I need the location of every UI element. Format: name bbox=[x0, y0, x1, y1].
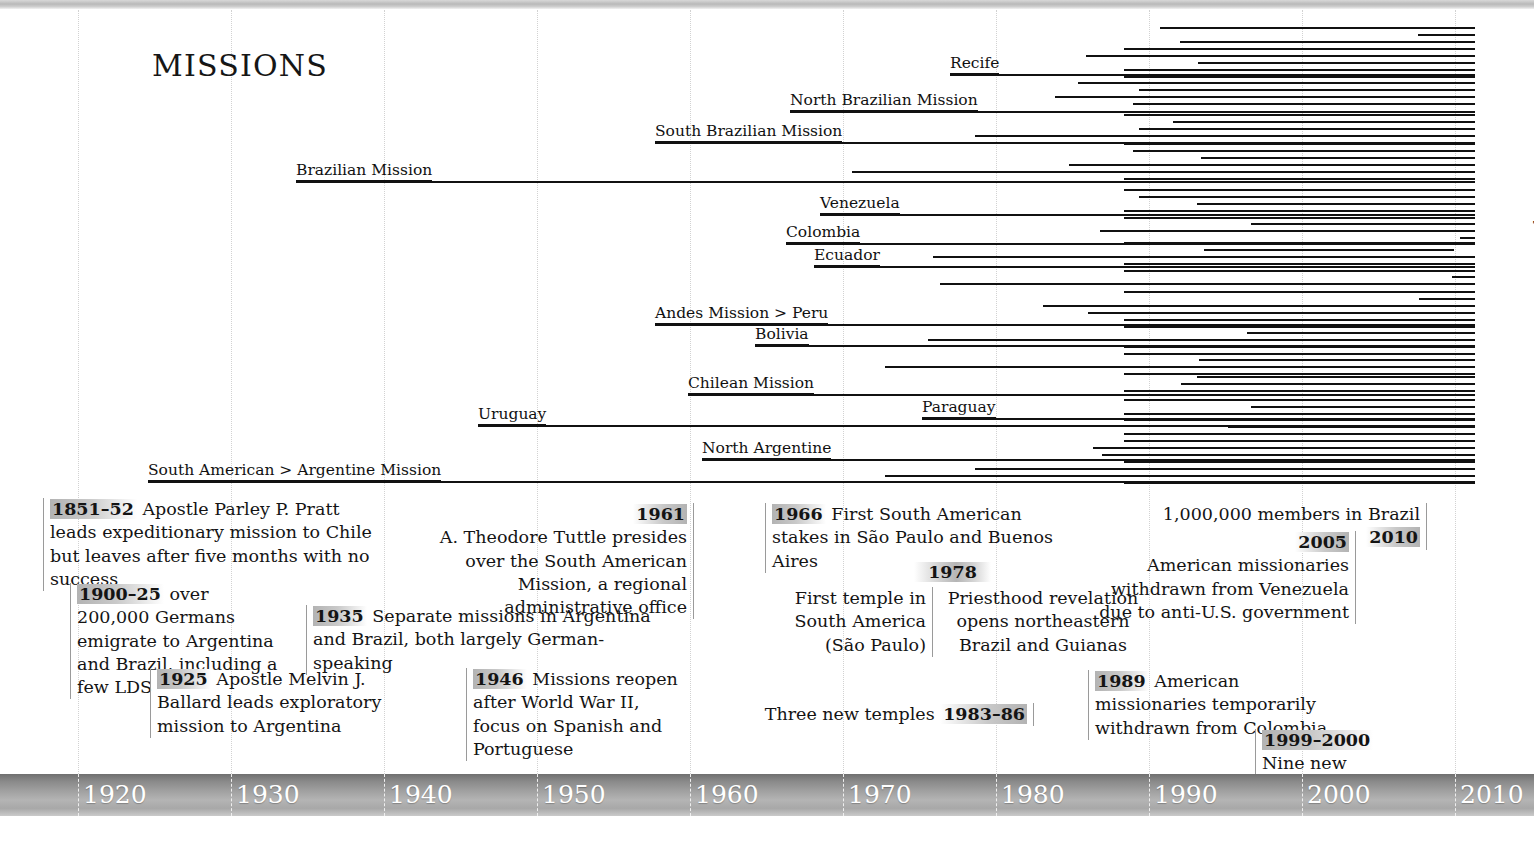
mission-bar bbox=[1139, 196, 1475, 198]
mission-group-rule bbox=[543, 425, 1475, 427]
mission-group-leader bbox=[950, 74, 1020, 76]
missions-chart: RecifeNorth Brazilian MissionSouth Brazi… bbox=[0, 10, 1534, 480]
mission-group-leader bbox=[688, 394, 808, 396]
mission-group-label: Brazilian Mission bbox=[296, 161, 432, 182]
mission-group-leader bbox=[814, 266, 879, 268]
mission-group-label: North Brazilian Mission bbox=[790, 91, 978, 112]
mission-group-label: Colombia bbox=[786, 223, 860, 244]
mission-bar bbox=[1124, 270, 1475, 272]
mission-group-leader bbox=[820, 214, 905, 216]
mission-group-rule bbox=[905, 214, 1475, 216]
mission-bar bbox=[885, 366, 1475, 368]
mission-bar bbox=[1124, 373, 1475, 375]
mission-group-leader bbox=[755, 345, 812, 347]
mission-group-label: Uruguay bbox=[478, 405, 546, 426]
mission-group-leader bbox=[296, 181, 443, 183]
mission-bar bbox=[1133, 150, 1475, 152]
mission-group-label: South Brazilian Mission bbox=[655, 122, 842, 143]
mission-group-rule bbox=[975, 111, 1475, 113]
mission-bar bbox=[1181, 383, 1475, 385]
mission-bar bbox=[1180, 41, 1475, 43]
mission-bar bbox=[1124, 399, 1475, 401]
mission-group-rule bbox=[812, 345, 1475, 347]
axis-label-1940: 1940 bbox=[389, 780, 453, 809]
mission-group-label: Recife bbox=[950, 54, 999, 75]
mission-bar bbox=[933, 256, 1475, 258]
mission-group-label: Chilean Mission bbox=[688, 374, 814, 395]
mission-bar bbox=[1124, 76, 1475, 78]
mission-bar bbox=[1124, 114, 1475, 116]
axis-label-2010: 2010 bbox=[1460, 780, 1524, 809]
annotation-a1978a: First temple in South America (São Paulo… bbox=[766, 587, 933, 657]
axis-tick-2010 bbox=[1455, 774, 1456, 816]
mission-group-rule bbox=[861, 243, 1475, 245]
annotation-a2005: 2005American missionaries withdrawn from… bbox=[1088, 531, 1356, 624]
mission-bar bbox=[1199, 359, 1475, 361]
mission-bar bbox=[1124, 390, 1475, 392]
annotation-year: 2010 bbox=[1366, 527, 1420, 547]
axis-label-1960: 1960 bbox=[695, 780, 759, 809]
annotation-a1961: 1961A. Theodore Tuttle presides over the… bbox=[397, 503, 694, 619]
mission-group-rule bbox=[820, 324, 1475, 326]
mission-group-leader bbox=[786, 243, 861, 245]
mission-group-leader bbox=[655, 142, 838, 144]
annotation-year: 1935 bbox=[313, 606, 367, 626]
mission-bar bbox=[1124, 217, 1475, 219]
annotation-year: 2005 bbox=[1295, 532, 1349, 552]
mission-bar bbox=[1043, 305, 1475, 307]
mission-bar bbox=[1124, 461, 1475, 463]
mission-bar bbox=[1197, 376, 1475, 378]
annotation-text: 1,000,000 members in Brazil bbox=[1163, 504, 1420, 524]
annotation-year: 1999–2000 bbox=[1262, 730, 1373, 750]
mission-bar bbox=[1173, 121, 1475, 123]
mission-bar bbox=[1139, 89, 1475, 91]
mission-bar bbox=[885, 475, 1475, 477]
mission-bar bbox=[1198, 62, 1475, 64]
mission-bar bbox=[1139, 128, 1475, 130]
mission-bar bbox=[1124, 353, 1475, 355]
mission-bar bbox=[1078, 82, 1475, 84]
mission-group-label: Ecuador bbox=[814, 246, 880, 267]
axis-label-1970: 1970 bbox=[848, 780, 912, 809]
infographic-root: MISSIONS RecifeNorth Brazilian MissionSo… bbox=[0, 0, 1534, 841]
axis-tick-1970 bbox=[843, 774, 844, 816]
mission-group-rule bbox=[996, 418, 1475, 420]
mission-bar bbox=[1204, 249, 1454, 251]
mission-bar bbox=[1124, 413, 1475, 415]
mission-group-leader bbox=[922, 418, 996, 420]
mission-bar bbox=[1124, 440, 1475, 442]
mission-bar bbox=[1088, 312, 1475, 314]
mission-bar bbox=[1201, 157, 1475, 159]
mission-bar bbox=[975, 135, 1475, 137]
mission-bar bbox=[1124, 178, 1475, 180]
axis-label-1980: 1980 bbox=[1001, 780, 1065, 809]
annotation-year: 1925 bbox=[157, 669, 211, 689]
annotation-year: 1966 bbox=[772, 504, 826, 524]
annotation-text: Three new temples bbox=[765, 704, 940, 724]
annotation-year: 1978 bbox=[914, 562, 991, 582]
mission-bar bbox=[1419, 298, 1475, 300]
mission-bar bbox=[1197, 203, 1475, 205]
mission-group-rule bbox=[443, 181, 1475, 183]
mission-bar bbox=[1124, 69, 1475, 71]
mission-group-label: Bolivia bbox=[755, 325, 809, 346]
mission-group-leader bbox=[790, 111, 975, 113]
axis-label-1920: 1920 bbox=[83, 780, 147, 809]
mission-bar bbox=[1460, 237, 1475, 239]
axis-tick-2000 bbox=[1302, 774, 1303, 816]
axis-label-1930: 1930 bbox=[236, 780, 300, 809]
mission-bar bbox=[928, 339, 1475, 341]
mission-bar bbox=[1452, 276, 1475, 278]
mission-group-label: Venezuela bbox=[820, 194, 900, 215]
axis-label-2000: 2000 bbox=[1307, 780, 1371, 809]
mission-bar bbox=[940, 283, 1475, 285]
timeline-axis: 1920193019401950196019701980199020002010 bbox=[0, 774, 1534, 816]
axis-tick-1940 bbox=[384, 774, 385, 816]
top-gray-strip bbox=[0, 0, 1534, 9]
mission-bar bbox=[1124, 189, 1475, 191]
annotation-text: First temple in South America (São Paulo… bbox=[795, 588, 926, 655]
mission-bar bbox=[1055, 96, 1475, 98]
axis-tick-1980 bbox=[996, 774, 997, 816]
axis-tick-1920 bbox=[78, 774, 79, 816]
mission-group-label: Andes Mission > Peru bbox=[655, 304, 828, 325]
